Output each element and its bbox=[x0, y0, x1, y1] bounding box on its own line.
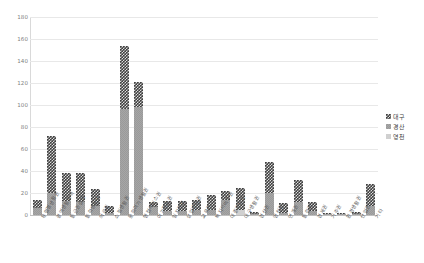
y-axis-tick-label: 160 bbox=[4, 36, 28, 42]
x-axis-tick-label: 일자리권 bbox=[171, 216, 176, 219]
legend-item[interactable]: 대구 bbox=[386, 112, 424, 121]
chart-legend: 대구경산영천 bbox=[386, 112, 424, 142]
y-axis-tick: 100 bbox=[0, 102, 28, 108]
bar-group[interactable] bbox=[33, 17, 42, 215]
legend-swatch bbox=[386, 134, 391, 139]
bar-group[interactable] bbox=[337, 17, 346, 215]
bar-group[interactable] bbox=[236, 17, 245, 215]
x-axis-tick-label: 대중교통권 bbox=[229, 216, 234, 219]
y-axis-tick-label: 40 bbox=[4, 168, 28, 174]
x-axis-tick-label: 여가활동권 bbox=[156, 216, 161, 219]
y-axis-tick-label: 0 bbox=[4, 212, 28, 218]
bars-layer bbox=[30, 17, 378, 215]
bar-group[interactable] bbox=[250, 17, 259, 215]
legend-swatch bbox=[386, 124, 391, 129]
y-axis-tick: 180 bbox=[0, 14, 28, 20]
y-axis-tick-label: 100 bbox=[4, 102, 28, 108]
bar-group[interactable] bbox=[91, 17, 100, 215]
x-axis-tick-label: 기타 bbox=[374, 216, 379, 219]
bar-segment bbox=[294, 180, 303, 202]
x-axis-tick-label: 경산권 bbox=[258, 216, 263, 219]
bar-group[interactable] bbox=[207, 17, 216, 215]
x-axis-tick-label: 영천권 bbox=[272, 216, 277, 219]
bar-group[interactable] bbox=[308, 17, 317, 215]
bar-group[interactable] bbox=[221, 17, 230, 215]
y-axis-tick-label: 120 bbox=[4, 80, 28, 86]
y-axis-tick-label: 80 bbox=[4, 124, 28, 130]
y-axis-tick: 160 bbox=[0, 36, 28, 42]
bar-group[interactable] bbox=[366, 17, 375, 215]
y-axis-tick: 60 bbox=[0, 146, 28, 152]
x-axis-tick-label: 유형별생활권 bbox=[40, 216, 45, 219]
legend-label: 영천 bbox=[393, 133, 405, 140]
bar-segment bbox=[120, 46, 129, 110]
x-axis-labels: 유형별생활권광역생활권역통근권설정통학생활권의료권쇼핑생활권문화여가생활권행정서… bbox=[30, 216, 378, 263]
y-axis-tick-label: 20 bbox=[4, 190, 28, 196]
bar-group[interactable] bbox=[178, 17, 187, 215]
bar-group[interactable] bbox=[62, 17, 71, 215]
x-axis-tick-label: 행정서비스권 bbox=[142, 216, 147, 219]
x-axis-tick-label: 환경생활권 bbox=[345, 216, 350, 219]
bar-group[interactable] bbox=[149, 17, 158, 215]
x-axis-tick-label: 복지서비스권 bbox=[214, 216, 219, 219]
bar-group[interactable] bbox=[76, 17, 85, 215]
y-axis-tick-label: 180 bbox=[4, 14, 28, 20]
legend-label: 대구 bbox=[393, 113, 405, 120]
y-axis-tick: 140 bbox=[0, 58, 28, 64]
y-axis-tick: 40 bbox=[0, 168, 28, 174]
legend-item[interactable]: 영천 bbox=[386, 132, 424, 141]
x-axis-tick-label: 쇼핑생활권 bbox=[113, 216, 118, 219]
y-axis-tick-label: 60 bbox=[4, 146, 28, 152]
bar-group[interactable] bbox=[163, 17, 172, 215]
bar-segment bbox=[265, 162, 274, 193]
y-axis-tick: 120 bbox=[0, 80, 28, 86]
bar-group[interactable] bbox=[294, 17, 303, 215]
bar-group[interactable] bbox=[192, 17, 201, 215]
bar-group[interactable] bbox=[120, 17, 129, 215]
x-axis-tick-label: 연계권 bbox=[287, 216, 292, 219]
bar-chart: 020406080100120140160180 유형별생활권광역생활권역통근권… bbox=[0, 0, 424, 263]
x-axis-tick-label: 통근권설정 bbox=[69, 216, 74, 219]
y-axis-tick: 0 bbox=[0, 212, 28, 218]
y-axis-tick: 80 bbox=[0, 124, 28, 130]
bar-group[interactable] bbox=[323, 17, 332, 215]
x-axis-tick-label: 문화여가생활권 bbox=[127, 216, 132, 219]
x-axis-tick-label: 통학생활권 bbox=[84, 216, 89, 219]
bar-group[interactable] bbox=[352, 17, 361, 215]
x-axis-tick-label: 통합권 bbox=[301, 216, 306, 219]
x-axis-tick-label: 광역생활권역 bbox=[55, 216, 60, 219]
x-axis-tick-label: 경제권 bbox=[316, 216, 321, 219]
bar-group[interactable] bbox=[47, 17, 56, 215]
bar-group[interactable] bbox=[134, 17, 143, 215]
bar-segment bbox=[33, 200, 42, 209]
bar-group[interactable] bbox=[279, 17, 288, 215]
y-axis-tick: 20 bbox=[0, 190, 28, 196]
x-axis-tick-label: 의료권 bbox=[98, 216, 103, 219]
x-axis-tick-label: 거주권 bbox=[330, 216, 335, 219]
bar-group[interactable] bbox=[105, 17, 114, 215]
bar-segment bbox=[47, 136, 56, 193]
legend-label: 경산 bbox=[393, 123, 405, 130]
x-axis-tick-label: 대구생활권 bbox=[243, 216, 248, 219]
legend-swatch bbox=[386, 114, 391, 119]
y-axis-tick-label: 140 bbox=[4, 58, 28, 64]
x-axis-tick-label: 산업권 bbox=[359, 216, 364, 219]
bar-segment bbox=[134, 82, 143, 107]
x-axis-tick-label: 상업생활권 bbox=[185, 216, 190, 219]
legend-item[interactable]: 경산 bbox=[386, 122, 424, 131]
x-axis-tick-label: 교육권 bbox=[200, 216, 205, 219]
bar-group[interactable] bbox=[265, 17, 274, 215]
